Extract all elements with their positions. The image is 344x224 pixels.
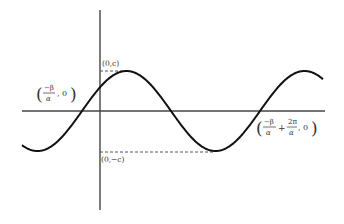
svg-text:2π: 2π: [288, 118, 297, 126]
sine-diagram: (0,c) (0,−c) ( −β α , 0 ) ( −β α + 2π α …: [0, 0, 344, 224]
svg-text:, 0: , 0: [57, 89, 67, 98]
svg-text:+: +: [278, 123, 286, 133]
svg-text:, 0: , 0: [298, 123, 308, 132]
svg-text:−β: −β: [44, 84, 54, 92]
svg-text:(: (: [256, 118, 263, 138]
svg-text:(: (: [36, 84, 43, 104]
svg-text:): ): [311, 118, 318, 138]
svg-text:): ): [70, 84, 77, 104]
right-zero-label: ( −β α + 2π α , 0 ): [256, 118, 318, 138]
svg-text:α: α: [289, 129, 294, 137]
max-point-label: (0,c): [102, 59, 119, 68]
svg-text:α: α: [266, 129, 271, 137]
svg-text:−β: −β: [264, 118, 274, 126]
min-point-label: (0,−c): [101, 155, 125, 164]
left-zero-label: ( −β α , 0 ): [36, 84, 77, 104]
svg-text:α: α: [46, 95, 51, 103]
